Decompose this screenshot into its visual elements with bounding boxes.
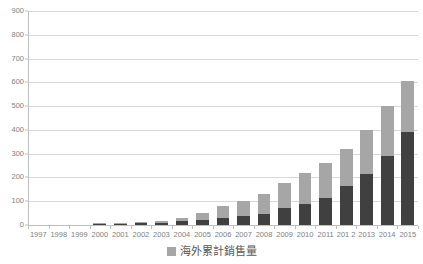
bar-series-container xyxy=(28,11,418,225)
bar-segment-domestic xyxy=(258,214,271,225)
y-axis-label-900: 900 xyxy=(11,7,24,15)
x-axis-tick xyxy=(172,226,173,229)
y-axis-label-100: 100 xyxy=(11,197,24,205)
x-axis-tick xyxy=(131,226,132,229)
bar-2010 xyxy=(299,173,312,225)
x-axis-label-1997: 1997 xyxy=(30,231,47,239)
x-axis-label-2002: 2002 xyxy=(133,231,150,239)
y-axis-label-600: 600 xyxy=(11,79,24,87)
bar-segment-overseas xyxy=(155,221,168,222)
x-axis-label-2015: 2015 xyxy=(399,231,416,239)
x-axis-tick xyxy=(295,226,296,229)
bar-2014 xyxy=(381,106,394,225)
x-axis-tick xyxy=(274,226,275,229)
bar-segment-overseas xyxy=(381,106,394,156)
x-axis-tick xyxy=(336,226,337,229)
x-axis-label-2000: 2000 xyxy=(91,231,108,239)
bar-2008 xyxy=(258,194,271,225)
x-axis-tick xyxy=(315,226,316,229)
x-axis-tick xyxy=(69,226,70,229)
bar-segment-domestic xyxy=(176,221,189,225)
x-axis-label-2009: 2009 xyxy=(276,231,293,239)
y-axis-label-0: 0 xyxy=(20,221,24,229)
bar-segment-domestic xyxy=(217,218,230,225)
bar-segment-domestic xyxy=(340,186,353,225)
bar-segment-overseas xyxy=(360,130,373,174)
bar-segment-overseas xyxy=(401,81,414,132)
x-axis-tick xyxy=(418,226,419,229)
bar-segment-domestic xyxy=(196,220,209,225)
y-axis-label-500: 500 xyxy=(11,102,24,110)
bar-2011 xyxy=(319,163,332,225)
bar-segment-domestic xyxy=(93,224,106,225)
bar-2002 xyxy=(135,222,148,225)
x-axis-label-2003: 2003 xyxy=(153,231,170,239)
y-axis-label-200: 200 xyxy=(11,174,24,182)
x-axis-label-2008: 2008 xyxy=(256,231,273,239)
bar-segment-domestic xyxy=(319,198,332,225)
x-axis-tick xyxy=(377,226,378,229)
x-axis-label-2014: 2014 xyxy=(379,231,396,239)
bar-2003 xyxy=(155,221,168,225)
x-axis-label-1998: 1998 xyxy=(50,231,67,239)
bar-segment-domestic xyxy=(135,223,148,225)
bar-segment-overseas xyxy=(217,206,230,218)
bar-segment-domestic xyxy=(401,132,414,225)
x-axis-label-1999: 1999 xyxy=(71,231,88,239)
x-axis-tick xyxy=(356,226,357,229)
bar-2007 xyxy=(237,201,250,225)
x-axis-tick xyxy=(28,226,29,229)
bar-segment-domestic xyxy=(360,174,373,225)
x-axis-tick xyxy=(151,226,152,229)
x-axis-label-2001: 2001 xyxy=(112,231,129,239)
bar-segment-domestic xyxy=(114,224,127,225)
bar-segment-overseas xyxy=(340,149,353,186)
legend-label-overseas: 海外累計銷售量 xyxy=(180,246,257,257)
bar-segment-overseas xyxy=(278,183,291,208)
x-axis: 1997199819992000200120022003200420052006… xyxy=(28,226,418,244)
bar-2001 xyxy=(114,223,127,225)
x-axis-tick xyxy=(233,226,234,229)
bar-2005 xyxy=(196,213,209,225)
bar-segment-domestic xyxy=(155,223,168,225)
x-axis-tick xyxy=(397,226,398,229)
plot-area: 0100200300400500600700800900 xyxy=(28,11,418,225)
bar-segment-domestic xyxy=(278,208,291,225)
bar-segment-domestic xyxy=(299,204,312,225)
bar-segment-overseas xyxy=(114,223,127,224)
x-axis-label-2012: 201 2 xyxy=(337,231,356,239)
bar-segment-overseas xyxy=(176,218,189,221)
x-axis-tick xyxy=(49,226,50,229)
y-axis-label-400: 400 xyxy=(11,126,24,134)
y-axis-label-800: 800 xyxy=(11,31,24,39)
x-axis-label-2005: 2005 xyxy=(194,231,211,239)
y-axis-line xyxy=(28,11,29,226)
x-axis-label-2010: 2010 xyxy=(297,231,314,239)
bar-segment-overseas xyxy=(237,201,250,216)
x-axis-tick xyxy=(110,226,111,229)
bar-2013 xyxy=(360,130,373,225)
x-axis-label-2013: 2013 xyxy=(358,231,375,239)
x-axis-tick xyxy=(192,226,193,229)
bar-segment-domestic xyxy=(237,216,250,226)
bar-segment-overseas xyxy=(299,173,312,204)
bar-segment-domestic xyxy=(381,156,394,225)
stacked-bar-chart: 0100200300400500600700800900 19971998199… xyxy=(0,0,423,264)
bar-segment-overseas xyxy=(258,194,271,213)
bar-2000 xyxy=(93,223,106,225)
x-axis-tick xyxy=(213,226,214,229)
x-axis-label-2006: 2006 xyxy=(215,231,232,239)
bar-2015 xyxy=(401,81,414,225)
y-axis-label-300: 300 xyxy=(11,150,24,158)
legend-swatch-overseas xyxy=(167,247,176,256)
y-axis-label-700: 700 xyxy=(11,55,24,63)
bar-2012 xyxy=(340,149,353,225)
chart-legend: 海外累計銷售量 xyxy=(0,246,423,257)
bar-2009 xyxy=(278,183,291,225)
x-axis-tick xyxy=(254,226,255,229)
x-axis-label-2011: 2011 xyxy=(318,231,334,239)
bar-segment-overseas xyxy=(196,213,209,220)
x-axis-label-2004: 2004 xyxy=(174,231,191,239)
x-axis-tick xyxy=(90,226,91,229)
bar-2004 xyxy=(176,218,189,225)
